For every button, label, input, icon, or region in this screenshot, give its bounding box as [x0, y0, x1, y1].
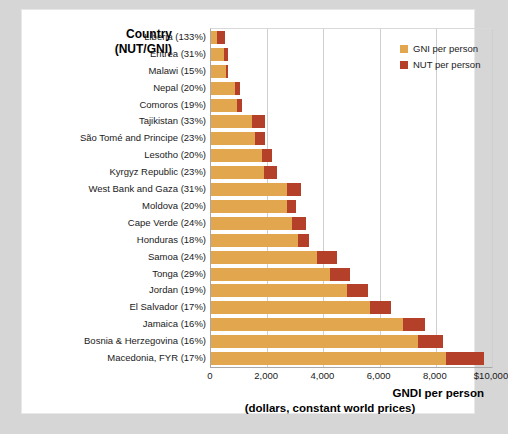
y-axis-labels: Liberia (133%)Eritrea (31%)Malawi (15%)N…: [22, 28, 206, 366]
y-axis-label: Lesotho (20%): [28, 148, 206, 161]
y-axis-label: Moldova (20%): [28, 199, 206, 212]
gridline: [267, 29, 268, 367]
x-axis-title-main: GNDI per person: [172, 386, 492, 401]
plot-area: [210, 28, 493, 368]
bar-segment-gni: [211, 318, 403, 331]
bar-row: [211, 268, 492, 281]
legend-item-nut[interactable]: NUT per person: [400, 58, 480, 71]
y-axis-label: Comoros (19%): [28, 98, 206, 111]
y-axis-label: Eritrea (31%): [28, 47, 206, 60]
y-axis-label: Nepal (20%): [28, 81, 206, 94]
bar-row: [211, 149, 492, 162]
bar-row: [211, 132, 492, 145]
bar-segment-gni: [211, 268, 330, 281]
x-axis-tick-label: 6,000: [367, 370, 391, 381]
bar-segment-nut: [317, 251, 337, 264]
bar-segment-gni: [211, 99, 237, 112]
gridline: [492, 29, 493, 367]
bar-segment-nut: [224, 48, 228, 61]
bar-row: [211, 183, 492, 196]
y-axis-label: Cape Verde (24%): [28, 216, 206, 229]
bar-segment-gni: [211, 82, 235, 95]
bar-segment-nut: [418, 335, 443, 348]
y-axis-label: El Salvador (17%): [28, 300, 206, 313]
bar-segment-nut: [264, 166, 276, 179]
bar-segment-gni: [211, 251, 317, 264]
bar-segment-gni: [211, 217, 292, 230]
x-axis-ticks: 02,0004,0006,0008,000$10,000: [210, 370, 491, 384]
bar-row: [211, 318, 492, 331]
gridline: [323, 29, 324, 367]
bar-segment-nut: [262, 149, 272, 162]
bar-segment-nut: [330, 268, 350, 281]
bar-row: [211, 234, 492, 247]
y-axis-label: Bosnia & Herzegovina (16%): [28, 334, 206, 347]
bar-row: [211, 251, 492, 264]
legend-item-gni[interactable]: GNI per person: [400, 42, 480, 55]
y-axis-label: Macedonia, FYR (17%): [28, 351, 206, 364]
y-axis-label: Liberia (133%): [28, 30, 206, 43]
bar-segment-nut: [217, 31, 225, 44]
bar-segment-nut: [292, 217, 306, 230]
legend-label: NUT per person: [413, 59, 480, 70]
bar-segment-gni: [211, 234, 298, 247]
x-axis-tick-label: 2,000: [254, 370, 278, 381]
bar-row: [211, 217, 492, 230]
y-axis-label: Samoa (24%): [28, 250, 206, 263]
bar-segment-nut: [226, 65, 228, 78]
bar-row: [211, 115, 492, 128]
x-axis-tick-label: 8,000: [423, 370, 447, 381]
bar-segment-nut: [370, 301, 391, 314]
y-axis-label: Jamaica (16%): [28, 317, 206, 330]
bar-segment-nut: [287, 200, 296, 213]
bar-row: [211, 166, 492, 179]
bar-segment-gni: [211, 200, 287, 213]
y-axis-label: Malawi (15%): [28, 64, 206, 77]
bar-segment-gni: [211, 48, 224, 61]
bar-segment-gni: [211, 65, 226, 78]
bar-segment-nut: [287, 183, 301, 196]
bar-row: [211, 352, 492, 365]
gridline: [380, 29, 381, 367]
y-axis-label: West Bank and Gaza (31%): [28, 182, 206, 195]
bar-segment-nut: [255, 132, 265, 145]
legend-label: GNI per person: [413, 43, 478, 54]
bar-segment-nut: [403, 318, 424, 331]
y-axis-label: Tonga (29%): [28, 267, 206, 280]
x-axis-title-sub: (dollars, constant world prices): [172, 401, 492, 416]
chart-legend: GNI per personNUT per person: [400, 42, 480, 74]
bar-row: [211, 335, 492, 348]
bar-segment-gni: [211, 301, 370, 314]
legend-swatch-icon: [400, 61, 408, 69]
legend-swatch-icon: [400, 45, 408, 53]
bar-segment-gni: [211, 166, 264, 179]
bar-segment-gni: [211, 284, 347, 297]
bar-segment-gni: [211, 149, 262, 162]
bar-segment-nut: [252, 115, 265, 128]
x-axis-tick-label: 0: [207, 370, 212, 381]
gridline: [436, 29, 437, 367]
x-axis-tick-label: $10,000: [474, 370, 508, 381]
bar-segment-nut: [237, 99, 242, 112]
y-axis-label: Honduras (18%): [28, 233, 206, 246]
bar-segment-gni: [211, 132, 255, 145]
x-axis-tick-label: 4,000: [311, 370, 335, 381]
chart-panel: Country (NUT/GNI) Liberia (133%)Eritrea …: [22, 10, 474, 413]
y-axis-label: São Tomé and Principe (23%): [28, 131, 206, 144]
bar-segment-nut: [235, 82, 240, 95]
bar-segment-gni: [211, 115, 252, 128]
bar-row: [211, 99, 492, 112]
y-axis-label: Kyrgyz Republic (23%): [28, 165, 206, 178]
x-axis-title: GNDI per person (dollars, constant world…: [172, 386, 492, 416]
bar-row: [211, 200, 492, 213]
bar-segment-nut: [347, 284, 368, 297]
y-axis-label: Jordan (19%): [28, 283, 206, 296]
bar-segment-gni: [211, 183, 287, 196]
y-axis-label: Tajikistan (33%): [28, 114, 206, 127]
bar-segment-nut: [298, 234, 308, 247]
bar-row: [211, 301, 492, 314]
bar-segment-gni: [211, 352, 446, 365]
bar-row: [211, 284, 492, 297]
bar-row: [211, 82, 492, 95]
